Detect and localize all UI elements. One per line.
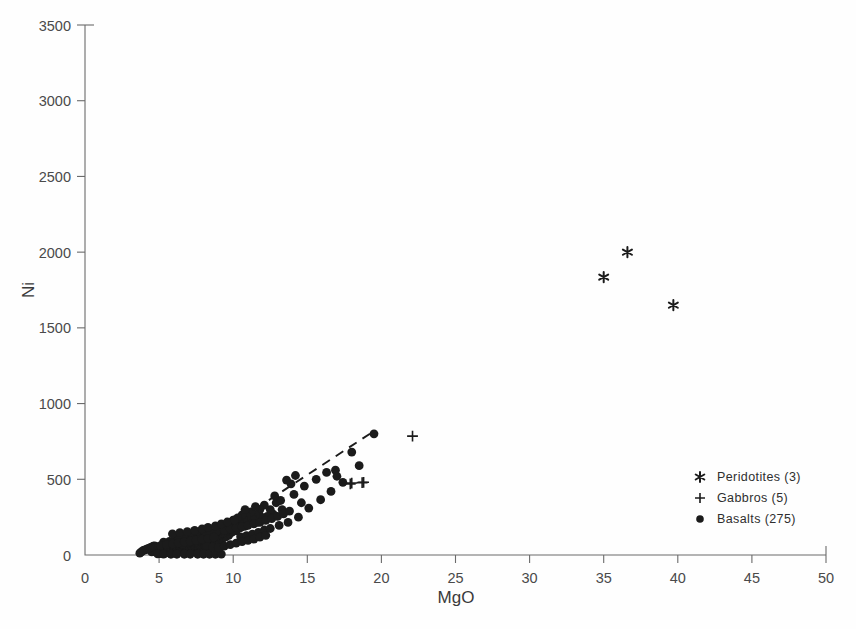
x-tick-label: 5 <box>155 570 163 586</box>
axes-group <box>85 25 826 555</box>
y-tick-label: 3000 <box>39 93 71 109</box>
y-tick-label: 0 <box>63 548 71 564</box>
legend-item[interactable]: Peridotites (3) <box>696 470 801 484</box>
data-point <box>333 472 342 481</box>
data-point <box>300 482 309 491</box>
data-point <box>316 495 325 504</box>
x-tick-label: 15 <box>299 570 315 586</box>
legend-label: Peridotites (3) <box>717 470 801 484</box>
data-point <box>357 477 368 488</box>
data-point <box>291 471 300 480</box>
data-point <box>623 247 632 257</box>
x-tick-label: 30 <box>522 570 538 586</box>
data-point <box>322 468 331 477</box>
data-point <box>223 518 232 527</box>
series-gabbros <box>345 431 418 490</box>
data-point <box>241 505 250 514</box>
data-point <box>168 529 177 538</box>
legend-marker-plus <box>695 493 705 503</box>
y-tick-label: 1000 <box>39 396 71 412</box>
data-point <box>669 300 678 310</box>
data-point <box>407 431 418 442</box>
x-tick-label: 45 <box>744 570 760 586</box>
axis-tick-labels-group: 0500100015002000250030003500051015202530… <box>39 18 834 587</box>
x-tick-label: 20 <box>373 570 389 586</box>
data-point <box>347 448 356 457</box>
data-point <box>204 523 213 532</box>
data-point <box>355 461 364 470</box>
x-tick-label: 50 <box>818 570 834 586</box>
legend-item[interactable]: Basalts (275) <box>696 512 796 526</box>
legend-marker-circle <box>696 515 704 523</box>
data-point <box>290 490 299 499</box>
data-point <box>270 492 279 501</box>
data-point <box>251 502 260 511</box>
legend-group: Peridotites (3)Gabbros (5)Basalts (275) <box>695 470 801 526</box>
y-axis-label: Ni <box>19 282 38 298</box>
legend-marker-asterisk <box>696 472 705 482</box>
data-point <box>230 515 239 524</box>
legend-label: Gabbros (5) <box>717 491 788 505</box>
y-tick-label: 1500 <box>39 320 71 336</box>
axis-ticks-group <box>77 25 826 563</box>
data-point <box>275 521 284 530</box>
data-point <box>285 507 294 516</box>
x-tick-label: 0 <box>81 570 89 586</box>
data-point <box>135 549 144 558</box>
data-point <box>183 527 192 536</box>
data-point <box>312 475 321 484</box>
data-point <box>175 528 184 537</box>
data-point <box>210 533 219 542</box>
x-axis-label: MgO <box>438 588 475 607</box>
data-point <box>370 429 379 438</box>
legend-item[interactable]: Gabbros (5) <box>695 491 788 505</box>
y-tick-label: 3500 <box>39 18 71 34</box>
y-tick-label: 2500 <box>39 169 71 185</box>
y-tick-label: 500 <box>47 472 71 488</box>
x-tick-label: 40 <box>670 570 686 586</box>
x-tick-label: 25 <box>447 570 463 586</box>
data-point <box>190 526 199 535</box>
series-basalts <box>135 429 378 558</box>
figure-scatter-mgo-ni: 0500100015002000250030003500051015202530… <box>0 0 856 629</box>
data-point <box>282 476 291 485</box>
data-point <box>297 498 306 507</box>
series-peridotites <box>599 247 678 310</box>
data-point <box>294 513 303 522</box>
data-point <box>327 487 336 496</box>
data-points-group <box>135 247 677 559</box>
data-point <box>304 504 313 513</box>
x-tick-label: 35 <box>596 570 612 586</box>
data-point <box>599 272 608 282</box>
x-tick-label: 10 <box>225 570 241 586</box>
data-point <box>284 518 293 527</box>
plot-canvas: 0500100015002000250030003500051015202530… <box>0 0 856 629</box>
legend-label: Basalts (275) <box>717 512 796 526</box>
y-tick-label: 2000 <box>39 245 71 261</box>
data-point <box>266 524 275 533</box>
